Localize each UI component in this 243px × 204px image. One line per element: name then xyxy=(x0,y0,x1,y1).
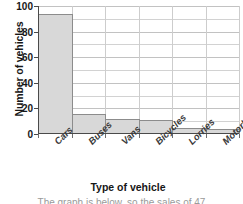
y-tick xyxy=(34,6,38,7)
gridline-vertical xyxy=(239,6,240,134)
y-tick-label: 60 xyxy=(22,52,33,63)
x-tick xyxy=(72,134,73,138)
bar-chart-figure: Number of vehicles 020406080100 CarsBuse… xyxy=(0,0,243,204)
y-tick-label: 100 xyxy=(16,1,33,12)
y-tick-label: 80 xyxy=(22,27,33,38)
x-tick xyxy=(139,134,140,138)
x-axis-title: Type of vehicle xyxy=(38,181,218,193)
x-tick xyxy=(38,134,39,138)
gridline-vertical xyxy=(206,6,207,134)
y-tick xyxy=(34,32,38,33)
y-tick-label: 20 xyxy=(22,103,33,114)
caption-fragment: The graph is below, so the sales of 47 xyxy=(0,197,243,204)
y-tick xyxy=(34,83,38,84)
x-tick xyxy=(206,134,207,138)
gridline-vertical xyxy=(139,6,140,134)
y-tick-label: 0 xyxy=(27,129,33,140)
gridline-vertical xyxy=(172,6,173,134)
y-tick-label: 40 xyxy=(22,78,33,89)
y-axis-spine xyxy=(38,6,39,134)
y-tick xyxy=(34,108,38,109)
bar-cars xyxy=(38,14,73,134)
y-tick xyxy=(34,57,38,58)
plot-area: 020406080100 xyxy=(38,6,239,134)
